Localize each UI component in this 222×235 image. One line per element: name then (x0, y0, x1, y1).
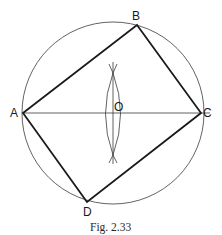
label-d: D (83, 205, 92, 219)
geometry-figure: A B C D O Fig. 2.33 (0, 0, 222, 235)
rectangle-abcd (23, 25, 201, 202)
label-c: C (203, 106, 212, 120)
figure-caption: Fig. 2.33 (90, 221, 131, 234)
construction-arc-left (106, 73, 114, 155)
label-a: A (10, 106, 18, 120)
label-b: B (132, 9, 140, 23)
label-o: O (114, 100, 123, 114)
construction-arc-right (113, 73, 121, 155)
